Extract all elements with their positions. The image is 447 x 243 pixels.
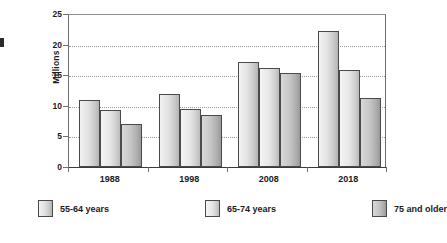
x-tick-mark	[68, 167, 69, 172]
x-tick-label: 1988	[80, 174, 140, 184]
legend-item[interactable]: 75 and older	[372, 200, 447, 217]
y-tick-label: 5	[36, 131, 62, 141]
y-tick-label: 10	[36, 101, 62, 111]
bar	[238, 62, 259, 167]
x-tick-mark	[148, 167, 149, 172]
plot-area	[68, 14, 386, 167]
legend-label: 55-64 years	[60, 204, 109, 214]
legend-swatch	[205, 200, 220, 217]
legend-swatch	[372, 200, 387, 217]
bar	[360, 98, 381, 167]
x-tick-label: 2018	[318, 174, 378, 184]
bar	[201, 115, 222, 167]
x-tick-label: 1998	[159, 174, 219, 184]
chart-legend: 55-64 years65-74 years75 and older	[0, 200, 401, 230]
bar	[339, 70, 360, 167]
bar	[318, 31, 339, 167]
y-tick-label: 15	[36, 70, 62, 80]
bar-group	[159, 15, 222, 167]
legend-label: 75 and older	[394, 204, 447, 214]
legend-item[interactable]: 55-64 years	[38, 200, 109, 217]
y-tick-label: 0	[36, 162, 62, 172]
legend-item[interactable]: 65-74 years	[205, 200, 276, 217]
bar	[280, 73, 301, 167]
legend-swatch	[38, 200, 53, 217]
x-tick-mark	[307, 167, 308, 172]
bar	[121, 124, 142, 167]
bar-group	[318, 15, 381, 167]
bar-group	[238, 15, 301, 167]
bar	[100, 110, 121, 167]
bar-series-container	[69, 15, 385, 167]
x-tick-mark	[386, 167, 387, 172]
bar	[259, 68, 280, 167]
legend-label: 65-74 years	[227, 204, 276, 214]
x-tick-mark	[227, 167, 228, 172]
bar	[79, 100, 100, 167]
y-tick-label: 25	[36, 9, 62, 19]
x-tick-label: 2008	[239, 174, 299, 184]
bar-group	[79, 15, 142, 167]
y-tick-label: 20	[36, 40, 62, 50]
bar	[180, 109, 201, 167]
bar	[159, 94, 180, 167]
